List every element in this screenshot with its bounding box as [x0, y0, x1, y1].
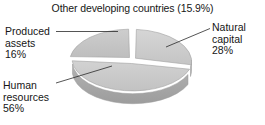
slice-label-natural-capital-value: 28% — [212, 45, 246, 57]
slice-produced-assets[interactable] — [70, 29, 129, 57]
slice-natural-capital[interactable] — [136, 29, 192, 64]
slice-label-human-resources: Human resources 56% — [3, 80, 49, 115]
slice-label-produced-assets-value: 16% — [5, 49, 50, 61]
slice-label-produced-assets-line1: Produced — [5, 26, 50, 38]
slice-label-natural-capital: Natural capital 28% — [212, 22, 246, 57]
pie-chart-figure: Other developing countries (15.9%) — [0, 0, 265, 125]
slice-label-natural-capital-line1: Natural — [212, 22, 246, 34]
slice-label-produced-assets: Produced assets 16% — [5, 26, 50, 61]
slice-label-human-resources-value: 56% — [3, 103, 49, 115]
slice-label-human-resources-line1: Human — [3, 80, 49, 92]
